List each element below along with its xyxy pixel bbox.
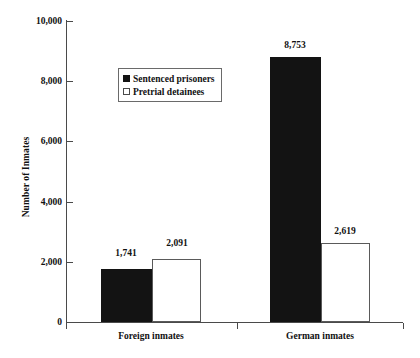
y-tick-mark-2000 [67, 262, 73, 263]
y-tick-mark-8000 [67, 81, 73, 82]
chart-legend: Sentenced prisoners Pretrial detainees [118, 68, 222, 102]
y-tick-mark-10000 [67, 21, 73, 22]
legend-item-pretrial: Pretrial detainees [123, 85, 215, 98]
y-tick-label-4000: 4,000 [2, 197, 62, 207]
x-axis-line [66, 322, 403, 323]
y-axis-title: Number of Inmates [21, 107, 31, 247]
filled-square-icon [123, 75, 130, 82]
y-tick-label-10000: 10,000 [2, 16, 62, 26]
y-tick-mark-0 [67, 322, 73, 323]
legend-label-pretrial: Pretrial detainees [133, 86, 204, 98]
open-square-icon [123, 88, 130, 95]
bar-german-sentenced [270, 57, 321, 322]
bar-value-german-sentenced: 8,753 [284, 40, 305, 50]
y-tick-label-8000: 8,000 [2, 76, 62, 86]
y-tick-mark-4000 [67, 202, 73, 203]
x-tick-mark-end [403, 323, 404, 329]
bar-foreign-pretrial [152, 259, 201, 322]
bar-value-german-pretrial: 2,619 [334, 226, 355, 236]
y-axis-line [66, 20, 67, 323]
bar-value-foreign-sentenced: 1,741 [115, 248, 136, 258]
bar-chart: Number of Inmates 10,000 8,000 6,000 4,0… [0, 0, 420, 358]
bar-value-foreign-pretrial: 2,091 [166, 238, 187, 248]
y-tick-label-2000: 2,000 [2, 257, 62, 267]
bar-foreign-sentenced [101, 269, 152, 322]
legend-item-sentenced: Sentenced prisoners [123, 72, 215, 85]
x-tick-mark-mid [237, 323, 238, 329]
x-tick-mark-start [66, 323, 67, 329]
x-category-label-german: German inmates [286, 331, 354, 341]
y-tick-label-6000: 6,000 [2, 136, 62, 146]
y-tick-label-0: 0 [2, 317, 62, 327]
legend-label-sentenced: Sentenced prisoners [133, 73, 215, 85]
x-category-label-foreign: Foreign inmates [118, 331, 184, 341]
bar-german-pretrial [321, 243, 370, 322]
y-tick-mark-6000 [67, 141, 73, 142]
